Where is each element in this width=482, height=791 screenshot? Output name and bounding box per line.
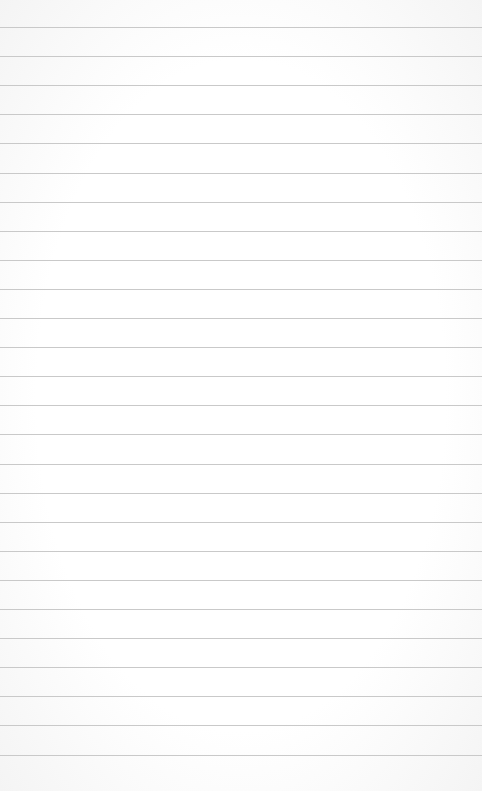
ruled-line [0, 405, 482, 406]
ruled-line [0, 143, 482, 144]
ruled-line [0, 347, 482, 348]
ruled-line [0, 202, 482, 203]
ruled-line [0, 638, 482, 639]
ruled-line [0, 725, 482, 726]
ruled-line [0, 551, 482, 552]
ruled-line [0, 522, 482, 523]
ruled-line [0, 609, 482, 610]
lined-paper [0, 0, 482, 791]
ruled-line [0, 376, 482, 377]
ruled-line [0, 56, 482, 57]
ruled-line [0, 85, 482, 86]
ruled-line [0, 464, 482, 465]
ruled-line [0, 260, 482, 261]
ruled-line [0, 580, 482, 581]
ruled-line [0, 114, 482, 115]
ruled-line [0, 696, 482, 697]
ruled-line [0, 231, 482, 232]
ruled-line [0, 493, 482, 494]
ruled-line [0, 173, 482, 174]
ruled-line [0, 27, 482, 28]
ruled-line [0, 434, 482, 435]
ruled-line [0, 318, 482, 319]
ruled-line [0, 755, 482, 756]
ruled-line [0, 289, 482, 290]
ruled-line [0, 667, 482, 668]
